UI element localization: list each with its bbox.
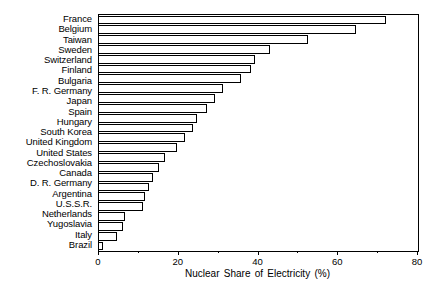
- bar: [99, 153, 165, 162]
- x-tick-minor: [218, 251, 219, 253]
- bar: [99, 35, 308, 44]
- bar: [99, 242, 103, 251]
- category-label: United Kingdom: [0, 137, 95, 147]
- x-tick-major: [258, 251, 259, 255]
- bar: [99, 202, 143, 211]
- bar-slot: [99, 202, 418, 212]
- bar-slot: [99, 182, 418, 192]
- bar: [99, 133, 185, 142]
- nuclear-share-bar-chart: FranceBelgiumTaiwanSwedenSwitzerlandFinl…: [0, 0, 431, 289]
- bar-slot: [99, 123, 418, 133]
- bar-slot: [99, 153, 418, 163]
- bar: [99, 74, 241, 83]
- bar-slot: [99, 162, 418, 172]
- category-label: Belgium: [0, 24, 95, 34]
- bar-slot: [99, 44, 418, 54]
- category-label: Brazil: [0, 240, 95, 250]
- bar: [99, 143, 177, 152]
- bar: [99, 232, 117, 241]
- x-tick-label: 0: [95, 256, 100, 267]
- x-axis-title: Nuclear Share of Electricity (%): [98, 268, 417, 280]
- bar: [99, 163, 159, 172]
- chart-title: [0, 0, 431, 2]
- bar-slot: [99, 241, 418, 251]
- x-tick-major: [337, 251, 338, 255]
- bar: [99, 212, 125, 221]
- x-tick-minor: [138, 251, 139, 253]
- x-tick-major: [98, 251, 99, 255]
- x-tick-label: 60: [332, 256, 343, 267]
- bar-slot: [99, 74, 418, 84]
- x-tick-major: [417, 251, 418, 255]
- bar: [99, 16, 386, 25]
- bar-slot: [99, 133, 418, 143]
- bar: [99, 45, 270, 54]
- bar: [99, 222, 123, 231]
- bar: [99, 25, 356, 34]
- bar: [99, 55, 255, 64]
- bar-slot: [99, 64, 418, 74]
- bar-slot: [99, 35, 418, 45]
- bar-slot: [99, 221, 418, 231]
- bar-slot: [99, 192, 418, 202]
- bar: [99, 94, 215, 103]
- plot-area: [98, 14, 419, 252]
- bar: [99, 114, 197, 123]
- category-axis-labels: FranceBelgiumTaiwanSwedenSwitzerlandFinl…: [0, 14, 95, 250]
- bar: [99, 192, 145, 201]
- x-tick-label: 40: [252, 256, 263, 267]
- x-tick-label: 20: [172, 256, 183, 267]
- bar-slot: [99, 231, 418, 241]
- x-tick-label: 80: [412, 256, 423, 267]
- bar: [99, 84, 223, 93]
- bar: [99, 104, 207, 113]
- category-label: D. R. Germany: [0, 178, 95, 188]
- bar-slot: [99, 25, 418, 35]
- bar-slot: [99, 54, 418, 64]
- bar-slot: [99, 172, 418, 182]
- category-label: Japan: [0, 96, 95, 106]
- bar-slot: [99, 84, 418, 94]
- bar-slot: [99, 103, 418, 113]
- x-tick-minor: [377, 251, 378, 253]
- bar-slot: [99, 15, 418, 25]
- bar: [99, 65, 251, 74]
- bar: [99, 183, 149, 192]
- bar: [99, 173, 153, 182]
- bar-slot: [99, 94, 418, 104]
- bar: [99, 124, 193, 133]
- x-tick-minor: [297, 251, 298, 253]
- bar-series: [99, 15, 418, 251]
- bar-slot: [99, 212, 418, 222]
- x-tick-major: [178, 251, 179, 255]
- bar-slot: [99, 113, 418, 123]
- bar-slot: [99, 143, 418, 153]
